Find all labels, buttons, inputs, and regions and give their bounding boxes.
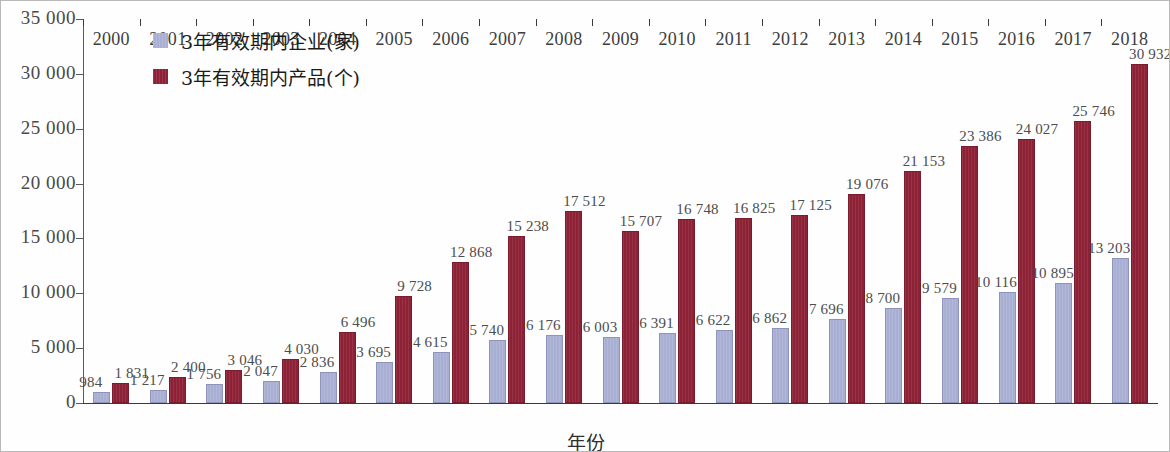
bar-products[interactable] bbox=[565, 211, 582, 403]
x-axis-tick bbox=[1101, 19, 1102, 26]
bar-value-label-enterprises: 4 615 bbox=[413, 335, 448, 350]
bar-enterprises[interactable] bbox=[999, 292, 1016, 403]
bar-value-label-enterprises: 8 700 bbox=[866, 291, 901, 306]
bar-products[interactable] bbox=[791, 215, 808, 403]
bar-value-label-enterprises: 5 740 bbox=[469, 323, 504, 338]
bar-enterprises[interactable] bbox=[263, 381, 280, 403]
x-axis-tick bbox=[536, 19, 537, 26]
x-axis-tick bbox=[253, 19, 254, 26]
bar-enterprises[interactable] bbox=[603, 337, 620, 403]
bar-products[interactable] bbox=[452, 262, 469, 403]
chart-legend: 3年有效期内企业(家) 3年有效期内产品(个) bbox=[153, 29, 360, 101]
bar-enterprises[interactable] bbox=[489, 340, 506, 403]
bar-value-label-products: 21 153 bbox=[903, 154, 945, 169]
legend-swatch-enterprises-icon bbox=[153, 33, 168, 48]
bar-enterprises[interactable] bbox=[885, 308, 902, 403]
bar-enterprises[interactable] bbox=[206, 384, 223, 403]
bar-products[interactable] bbox=[508, 236, 525, 403]
bar-products[interactable] bbox=[904, 171, 921, 403]
bar-products[interactable] bbox=[225, 370, 242, 403]
x-axis-line bbox=[83, 403, 1158, 404]
x-axis-tick-label: 2017 bbox=[1055, 29, 1092, 50]
bar-enterprises[interactable] bbox=[433, 352, 450, 403]
x-axis-tick-label: 2009 bbox=[602, 29, 639, 50]
x-axis-tick bbox=[366, 19, 367, 26]
bar-value-label-enterprises: 6 622 bbox=[696, 313, 731, 328]
bar-enterprises[interactable] bbox=[659, 333, 676, 403]
bar-value-label-enterprises: 1 756 bbox=[187, 367, 222, 382]
bar-value-label-enterprises: 2 047 bbox=[243, 364, 278, 379]
y-axis-tick-label: 0 bbox=[0, 391, 76, 413]
bar-products[interactable] bbox=[1131, 64, 1148, 403]
bar-value-label-enterprises: 6 862 bbox=[752, 311, 787, 326]
y-axis-tick-label: 5 000 bbox=[0, 336, 76, 358]
bar-products[interactable] bbox=[395, 296, 412, 403]
x-axis-tick-label: 2014 bbox=[885, 29, 922, 50]
x-axis-tick-label: 2018 bbox=[1111, 29, 1148, 50]
bar-value-label-enterprises: 9 579 bbox=[922, 281, 957, 296]
bar-enterprises[interactable] bbox=[942, 298, 959, 403]
bar-products[interactable] bbox=[735, 218, 752, 403]
legend-label-products: 3年有效期内产品(个) bbox=[181, 63, 360, 90]
x-axis-title: 年份 bbox=[1, 428, 1170, 452]
bar-value-label-products: 17 512 bbox=[563, 194, 605, 209]
bar-value-label-enterprises: 13 203 bbox=[1088, 241, 1130, 256]
bar-products[interactable] bbox=[1074, 121, 1091, 403]
bar-value-label-enterprises: 2 836 bbox=[300, 355, 335, 370]
x-axis-tick bbox=[705, 19, 706, 26]
x-axis-tick bbox=[1045, 19, 1046, 26]
y-axis-tick bbox=[76, 74, 83, 75]
bar-enterprises[interactable] bbox=[1055, 283, 1072, 403]
bar-products[interactable] bbox=[339, 332, 356, 403]
bar-value-label-enterprises: 10 116 bbox=[975, 275, 1017, 290]
bar-value-label-enterprises: 7 696 bbox=[809, 302, 844, 317]
bar-value-label-products: 16 748 bbox=[676, 202, 718, 217]
y-axis-tick-label: 30 000 bbox=[0, 62, 76, 84]
y-axis-tick bbox=[76, 293, 83, 294]
bar-value-label-products: 9 728 bbox=[397, 279, 432, 294]
bar-enterprises[interactable] bbox=[772, 328, 789, 403]
bar-value-label-enterprises: 1 217 bbox=[130, 373, 165, 388]
bar-enterprises[interactable] bbox=[320, 372, 337, 403]
y-axis-tick bbox=[76, 129, 83, 130]
y-axis-tick bbox=[76, 238, 83, 239]
y-axis-tick bbox=[76, 19, 83, 20]
bar-value-label-products: 6 496 bbox=[341, 315, 376, 330]
bar-products[interactable] bbox=[169, 377, 186, 403]
bar-products[interactable] bbox=[848, 194, 865, 403]
bar-value-label-products: 15 707 bbox=[620, 214, 662, 229]
y-axis-tick bbox=[76, 184, 83, 185]
bar-enterprises[interactable] bbox=[150, 390, 167, 403]
y-axis-tick-label: 15 000 bbox=[0, 226, 76, 248]
x-axis-tick bbox=[196, 19, 197, 26]
legend-swatch-products-icon bbox=[153, 69, 168, 84]
bar-products[interactable] bbox=[678, 219, 695, 403]
bar-enterprises[interactable] bbox=[93, 392, 110, 403]
bar-enterprises[interactable] bbox=[829, 319, 846, 403]
y-axis-tick bbox=[76, 403, 83, 404]
bar-enterprises[interactable] bbox=[1112, 258, 1129, 403]
legend-item-enterprises[interactable]: 3年有效期内企业(家) bbox=[153, 29, 360, 52]
bar-value-label-enterprises: 984 bbox=[79, 375, 102, 390]
legend-item-products[interactable]: 3年有效期内产品(个) bbox=[153, 65, 360, 88]
x-axis-tick bbox=[819, 19, 820, 26]
bar-products[interactable] bbox=[112, 383, 129, 403]
y-axis-tick-label: 20 000 bbox=[0, 172, 76, 194]
bar-products[interactable] bbox=[622, 231, 639, 403]
x-axis-tick-label: 2012 bbox=[772, 29, 809, 50]
bar-value-label-enterprises: 3 695 bbox=[356, 345, 391, 360]
x-axis-tick-label: 2006 bbox=[432, 29, 469, 50]
x-axis-tick-label: 2015 bbox=[941, 29, 978, 50]
bar-enterprises[interactable] bbox=[716, 330, 733, 403]
x-axis-tick-label: 2013 bbox=[828, 29, 865, 50]
bar-products[interactable] bbox=[282, 359, 299, 403]
y-axis-tick-label: 10 000 bbox=[0, 281, 76, 303]
x-axis-tick bbox=[83, 19, 84, 26]
bar-enterprises[interactable] bbox=[376, 362, 393, 403]
x-axis-tick-label: 2016 bbox=[998, 29, 1035, 50]
x-axis-tick bbox=[592, 19, 593, 26]
x-axis-tick-label: 2011 bbox=[715, 29, 752, 50]
x-axis-tick-label: 2000 bbox=[93, 29, 130, 50]
bar-value-label-enterprises: 6 176 bbox=[526, 318, 561, 333]
bar-enterprises[interactable] bbox=[546, 335, 563, 403]
